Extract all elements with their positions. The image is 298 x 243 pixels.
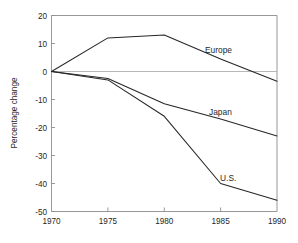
- series-line-us: [52, 72, 278, 201]
- y-axis-label-neg30: -30: [35, 152, 47, 161]
- y-axis-label-neg20: -20: [35, 124, 47, 133]
- y-axis-label-20: 20: [38, 12, 48, 21]
- x-axis-label-1980: 1980: [155, 217, 174, 226]
- x-axis-label-1970: 1970: [42, 217, 61, 226]
- line-chart-figure: 20 10 0 -10 -20 -30 -40 -50 1970 1975 19…: [0, 0, 298, 243]
- x-axis-tick-labels: 1970 1975 1980 1985 1990: [42, 217, 286, 226]
- y-axis-label-neg10: -10: [35, 96, 47, 105]
- y-axis-label-10: 10: [38, 40, 48, 49]
- y-axis-tick-labels: 20 10 0 -10 -20 -30 -40 -50: [35, 12, 47, 217]
- x-axis-label-1990: 1990: [268, 217, 287, 226]
- series-label-japan: Japan: [209, 107, 232, 117]
- series-label-us: U.S.: [220, 173, 236, 183]
- x-axis-label-1975: 1975: [99, 217, 118, 226]
- series-lines: [52, 35, 278, 200]
- plot-frame: [52, 16, 278, 212]
- chart-canvas: 20 10 0 -10 -20 -30 -40 -50 1970 1975 19…: [0, 0, 298, 243]
- y-axis-label-neg50: -50: [35, 208, 47, 217]
- y-tickmarks: [52, 16, 56, 212]
- series-line-japan: [52, 72, 278, 136]
- plot-border: [52, 16, 278, 212]
- y-axis-label-neg40: -40: [35, 180, 47, 189]
- x-tickmarks: [108, 208, 221, 212]
- series-annotations: Europe Japan U.S.: [205, 45, 236, 183]
- y-axis-title: Percentage change: [10, 77, 19, 148]
- x-axis-label-1985: 1985: [211, 217, 230, 226]
- series-label-europe: Europe: [205, 45, 232, 55]
- y-axis-label-0: 0: [42, 68, 47, 77]
- series-line-europe: [52, 35, 278, 81]
